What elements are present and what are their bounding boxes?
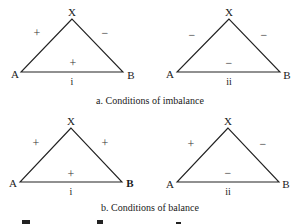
vertex-b-label: B	[282, 179, 289, 190]
sign-left-side: +	[33, 137, 40, 149]
cropped-text-fragment	[22, 220, 30, 224]
sign-left-side: −	[189, 29, 196, 41]
sign-base: +	[70, 57, 77, 69]
triangle-lines	[0, 0, 299, 224]
vertex-a-label: A	[166, 69, 174, 80]
vertex-x-label: X	[224, 116, 232, 127]
triangle-numeral: i	[71, 77, 74, 87]
vertex-x-label: X	[68, 7, 76, 18]
vertex-a-label: A	[166, 179, 174, 190]
sign-base: −	[226, 57, 233, 69]
sign-right-side: −	[102, 27, 109, 39]
vertex-b-label: B	[126, 178, 133, 189]
sign-base: −	[225, 167, 232, 179]
sign-left-side: +	[34, 27, 41, 39]
vertex-a-label: A	[11, 69, 19, 80]
vertex-b-label: B	[283, 70, 290, 81]
vertex-a-label: A	[9, 178, 17, 189]
caption-balance: b. Conditions of balance	[101, 203, 199, 213]
sign-right-side: −	[261, 29, 268, 41]
cropped-text-fragment	[97, 220, 103, 224]
vertex-x-label: X	[67, 116, 75, 127]
vertex-x-label: X	[225, 7, 233, 18]
triangle-numeral: i	[70, 187, 73, 197]
sign-right-side: −	[260, 138, 267, 150]
caption-imbalance: a. Conditions of imbalance	[96, 96, 204, 106]
triangle-numeral: ii	[225, 187, 231, 197]
vertex-b-label: B	[127, 70, 134, 81]
sign-left-side: +	[188, 138, 195, 150]
sign-base: +	[68, 168, 75, 180]
sign-right-side: +	[102, 137, 109, 149]
triangle-numeral: ii	[226, 77, 232, 87]
cropped-text-fragment	[176, 222, 181, 224]
